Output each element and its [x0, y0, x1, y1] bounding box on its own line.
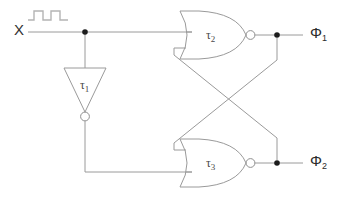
nor-tau3-label: τ3 [206, 157, 215, 169]
phi1-index: 1 [322, 33, 327, 43]
wire-inverter-to-nor3 [85, 121, 192, 172]
junction-dot-phi2 [274, 160, 280, 166]
nor-tau3-bubble-icon [246, 159, 255, 168]
input-label-x: X [14, 22, 24, 37]
inverter-bubble-icon [81, 112, 90, 121]
output-label-phi2: Φ2 [310, 153, 327, 168]
wire-output-phi2 [255, 160, 303, 166]
junction-dot-input [82, 29, 88, 35]
nor-tau2-label: τ2 [206, 29, 215, 41]
phi2-symbol: Φ [310, 152, 322, 169]
tau2-index: 2 [211, 34, 216, 44]
nor-tau2-bubble-icon [246, 31, 255, 40]
tau1-index: 1 [85, 84, 90, 94]
output-label-phi1: Φ1 [310, 25, 327, 40]
circuit-diagram: X τ1 τ2 τ3 Φ1 Φ2 [0, 0, 346, 198]
inverter-tau1-label: τ1 [80, 79, 89, 91]
square-wave-symbol [28, 11, 68, 20]
phi1-symbol: Φ [310, 24, 322, 41]
inverter-tau1 [64, 68, 106, 121]
nor-gate-tau3 [180, 139, 255, 187]
junction-dot-phi1 [274, 32, 280, 38]
nor-gate-tau2 [180, 11, 255, 59]
tau3-index: 3 [211, 162, 216, 172]
schematic-canvas [0, 0, 346, 198]
wire-output-phi1 [255, 32, 303, 38]
phi2-index: 2 [322, 161, 327, 171]
